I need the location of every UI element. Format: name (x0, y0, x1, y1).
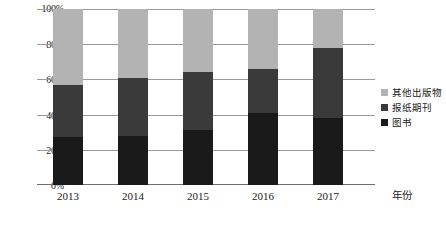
bar-group-2016 (248, 9, 278, 185)
bar-segment-books (248, 113, 278, 185)
bar-segment-newspapers (313, 48, 343, 118)
bar-series-container (37, 9, 375, 185)
x-axis-tick-label-2016: 2016 (228, 190, 298, 202)
bar-segment-newspapers (248, 69, 278, 113)
bar-segment-books (313, 118, 343, 185)
legend-swatch-icon (381, 89, 388, 96)
bar-segment-newspapers (183, 72, 213, 130)
legend-item-other: 其他出版物 (381, 86, 445, 99)
bar-group-2015 (183, 9, 213, 185)
x-axis-tick-label-2017: 2017 (293, 190, 363, 202)
plot-area (37, 9, 375, 185)
chart-legend: 其他出版物 报纸期刊 图书 (381, 86, 445, 131)
bar-segment-newspapers (53, 85, 83, 138)
legend-label: 其他出版物 (392, 88, 442, 98)
x-axis-title: 年份 (392, 190, 412, 202)
legend-item-newspapers: 报纸期刊 (381, 101, 445, 114)
bar-segment-other (313, 9, 343, 48)
bar-segment-other (183, 9, 213, 72)
bar-segment-books (53, 137, 83, 185)
bar-segment-books (183, 130, 213, 185)
bar-segment-other (118, 9, 148, 78)
bar-segment-books (118, 136, 148, 185)
legend-label: 报纸期刊 (392, 103, 432, 113)
bar-segment-other (53, 9, 83, 85)
bar-segment-newspapers (118, 78, 148, 136)
legend-item-books: 图书 (381, 116, 445, 129)
x-axis-tick-label-2013: 2013 (33, 190, 103, 202)
legend-swatch-icon (381, 104, 388, 111)
stacked-bar-chart: 100% 80% 60% 40% 20% 0% (0, 0, 446, 225)
legend-swatch-icon (381, 119, 388, 126)
legend-label: 图书 (392, 118, 412, 128)
x-axis-tick-label-2015: 2015 (163, 190, 233, 202)
bar-group-2013 (53, 9, 83, 185)
x-axis-tick-label-2014: 2014 (98, 190, 168, 202)
bar-group-2017 (313, 9, 343, 185)
bar-segment-other (248, 9, 278, 69)
bar-group-2014 (118, 9, 148, 185)
